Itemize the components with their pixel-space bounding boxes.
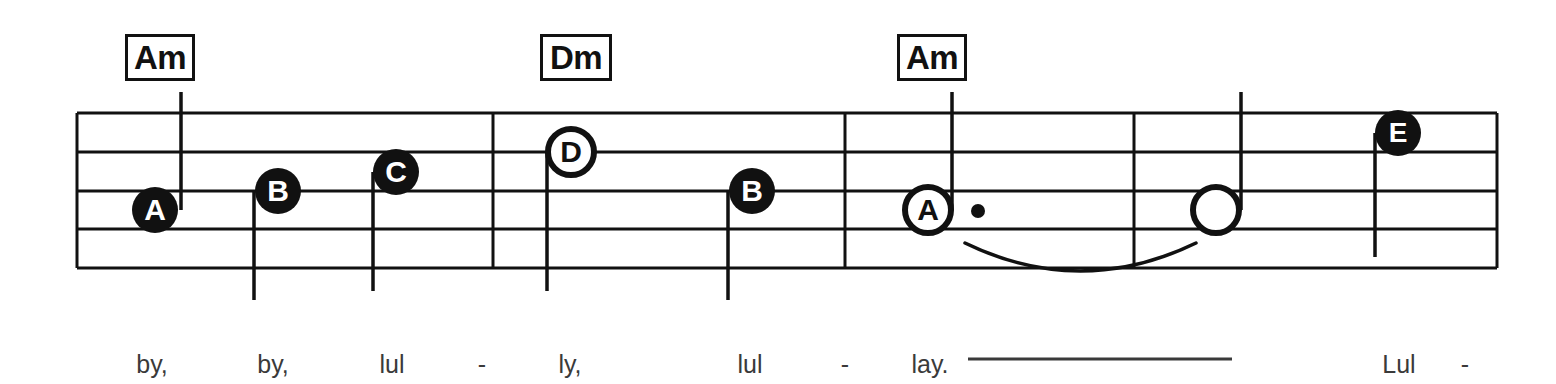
lyric-syllable-2: by, [257, 350, 289, 379]
notehead-a-1[interactable] [132, 187, 178, 233]
staff-notation-svg [0, 0, 1556, 384]
notehead-c-3[interactable] [373, 149, 419, 195]
notehead-a-6[interactable] [905, 187, 951, 233]
notehead-b-5[interactable] [729, 168, 775, 214]
lyric-syllable-6: lul [737, 350, 762, 379]
notehead-d-4[interactable] [548, 129, 594, 175]
lyric-syllable-3: lul [379, 350, 404, 379]
lyric-syllable-8: lay. [911, 350, 948, 379]
notehead-tied-7[interactable] [1193, 187, 1239, 233]
music-score-canvas: ABCDBAEAmDmAmby,by,lul-ly,lul-lay.Lul- [0, 0, 1556, 384]
lyric-syllable-10: - [1461, 350, 1469, 379]
lyric-syllable-1: by, [136, 350, 168, 379]
notehead-e-8[interactable] [1375, 110, 1421, 156]
chord-symbol-am-3[interactable]: Am [897, 34, 967, 81]
chord-symbol-dm-2[interactable]: Dm [540, 34, 612, 81]
augmentation-dot [971, 204, 985, 218]
notehead-b-2[interactable] [255, 168, 301, 214]
chord-symbol-am-1[interactable]: Am [125, 34, 195, 81]
lyric-syllable-7: - [841, 350, 849, 379]
lyric-syllable-5: ly, [558, 350, 581, 379]
lyric-syllable-9: Lul [1382, 350, 1415, 379]
lyric-syllable-4: - [478, 350, 486, 379]
